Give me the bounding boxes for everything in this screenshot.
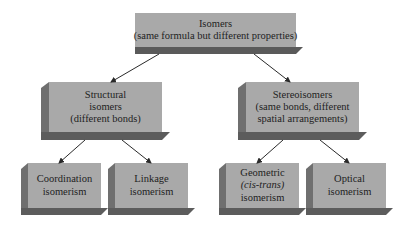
node-linkage-line1: Linkage	[134, 173, 168, 185]
node-linkage-bottom-face	[108, 208, 188, 215]
arrow-structural-to-linkage	[122, 140, 151, 163]
arrow-stereo-to-optical	[320, 140, 349, 163]
node-coordination-bevel-bottom	[101, 208, 108, 215]
arrow-isomers-to-stereo	[254, 54, 290, 82]
node-isomers-title: Isomers	[199, 18, 232, 30]
node-linkage-bevel-bottom	[188, 208, 195, 215]
node-stereo-face: Stereoisomers (same bonds, different spa…	[246, 82, 359, 132]
node-geometric-line3: isomerism	[241, 192, 285, 204]
node-geometric-line2-cis-trans: (cis-trans)	[241, 179, 285, 191]
arrow-stereo-to-geometric	[257, 140, 283, 163]
node-coordination-bottom-face	[21, 208, 101, 215]
node-optical-isomerism: Optical isomerism	[306, 163, 393, 215]
node-structural-bevel-bottom	[162, 132, 170, 140]
arrow-structural-to-coordination	[59, 140, 85, 163]
node-geometric-isomerism: Geometric (cis-trans) isomerism	[219, 163, 306, 215]
node-stereo-bevel-bottom	[359, 132, 367, 140]
node-coordination-line1: Coordination	[37, 173, 92, 185]
node-optical-line2: isomerism	[328, 186, 372, 198]
node-structural-bottom-face	[41, 132, 162, 140]
node-structural-face: Structural isomers (different bonds)	[49, 82, 162, 132]
node-stereo-line3: spatial arrangements)	[257, 113, 347, 125]
node-stereoisomers: Stereoisomers (same bonds, different spa…	[238, 82, 367, 140]
node-geometric-face: Geometric (cis-trans) isomerism	[226, 163, 299, 208]
node-geometric-bottom-face	[219, 208, 299, 215]
node-isomers-face: Isomers (same formula but different prop…	[135, 13, 296, 47]
node-linkage-isomerism: Linkage isomerism	[108, 163, 195, 215]
node-coordination-isomerism: Coordination isomerism	[21, 163, 108, 215]
node-optical-line1: Optical	[334, 173, 365, 185]
node-optical-face: Optical isomerism	[313, 163, 386, 208]
node-stereo-line1: Stereoisomers	[273, 89, 333, 101]
node-structural-line3: (different bonds)	[70, 113, 141, 125]
node-isomers-bevel	[296, 47, 303, 54]
node-linkage-line2: isomerism	[130, 186, 174, 198]
node-optical-bottom-face	[306, 208, 386, 215]
node-coordination-face: Coordination isomerism	[28, 163, 101, 208]
node-structural-line1: Structural	[85, 89, 126, 101]
node-linkage-face: Linkage isomerism	[115, 163, 188, 208]
node-isomers: Isomers (same formula but different prop…	[135, 13, 303, 54]
node-coordination-line2: isomerism	[43, 186, 87, 198]
node-isomers-bottom-face	[135, 47, 296, 54]
node-stereo-line2: (same bonds, different	[256, 101, 350, 113]
node-geometric-line1: Geometric	[240, 167, 284, 179]
node-geometric-bevel-bottom	[299, 208, 306, 215]
node-structural-line2: isomers	[89, 101, 122, 113]
node-optical-bevel-bottom	[386, 208, 393, 215]
node-isomers-subtitle: (same formula but different properties)	[134, 30, 298, 42]
node-stereo-bottom-face	[238, 132, 359, 140]
node-structural-isomers: Structural isomers (different bonds)	[41, 82, 170, 140]
arrow-isomers-to-structural	[111, 54, 159, 82]
